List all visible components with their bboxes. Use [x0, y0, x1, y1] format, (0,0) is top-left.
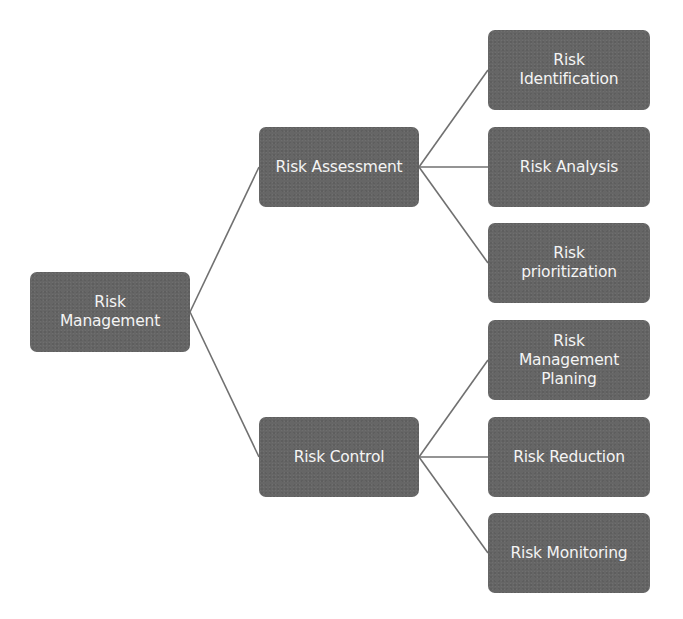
connector-root-to-control — [190, 312, 259, 457]
connector-root-to-assessment — [190, 167, 259, 312]
node-risk-analysis: Risk Analysis — [488, 127, 650, 207]
node-risk-monitoring: Risk Monitoring — [488, 513, 650, 593]
node-risk-reduction: Risk Reduction — [488, 417, 650, 497]
connector-assessment-to-prioritization — [419, 167, 488, 263]
connector-control-to-planing — [419, 360, 488, 457]
node-risk-control: Risk Control — [259, 417, 419, 497]
connector-control-to-monitoring — [419, 457, 488, 553]
node-risk-identification: Risk Identification — [488, 30, 650, 110]
node-risk-prioritization: Risk prioritization — [488, 223, 650, 303]
node-risk-management: Risk Management — [30, 272, 190, 352]
node-risk-assessment: Risk Assessment — [259, 127, 419, 207]
connector-assessment-to-identification — [419, 70, 488, 167]
node-risk-management-planing: Risk Management Planing — [488, 320, 650, 400]
